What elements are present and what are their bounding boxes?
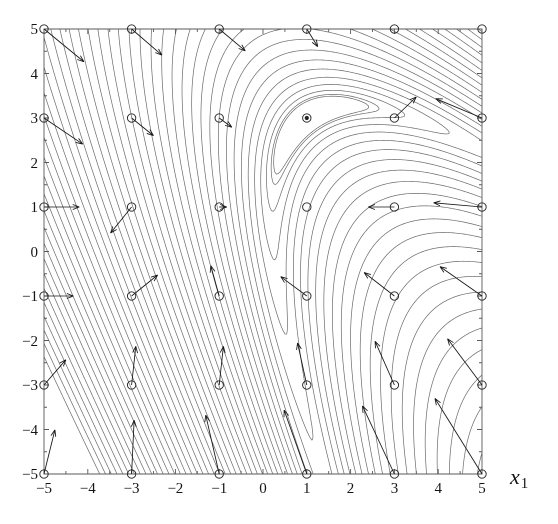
x-tick-label: −1 bbox=[211, 481, 227, 496]
x-tick-label: −4 bbox=[80, 481, 96, 496]
x-tick-label: 3 bbox=[391, 481, 399, 496]
y-tick-label: 4 bbox=[31, 66, 39, 81]
y-tick-label: −2 bbox=[22, 333, 38, 348]
y-tick-label: −1 bbox=[22, 289, 38, 304]
y-tick-label: −3 bbox=[22, 378, 38, 393]
x-tick-label: 5 bbox=[478, 481, 486, 496]
y-tick-label: 0 bbox=[31, 244, 39, 259]
x-tick-label: −3 bbox=[124, 481, 140, 496]
x-tick-label: −2 bbox=[167, 481, 183, 496]
y-tick-label: 1 bbox=[31, 200, 39, 215]
y-tick-label: 3 bbox=[31, 111, 39, 126]
y-tick-label: −4 bbox=[22, 422, 38, 437]
x-tick-label: 1 bbox=[303, 481, 311, 496]
y-tick-label: −5 bbox=[22, 467, 38, 482]
x-axis-title-subscript: 1 bbox=[521, 475, 529, 491]
y-tick-label: 5 bbox=[31, 22, 39, 37]
x-tick-label: 2 bbox=[347, 481, 355, 496]
figure-root: −5−4−3−2−1012345 543210−1−2−3−4−5 x1 bbox=[0, 0, 558, 524]
contour-plot-canvas bbox=[0, 0, 558, 524]
x-tick-label: −5 bbox=[36, 481, 52, 496]
x-axis-title: x1 bbox=[510, 464, 527, 490]
x-axis-title-base: x bbox=[510, 464, 520, 489]
y-tick-label: 2 bbox=[31, 155, 39, 170]
x-tick-label: 0 bbox=[259, 481, 267, 496]
x-tick-label: 4 bbox=[434, 481, 442, 496]
